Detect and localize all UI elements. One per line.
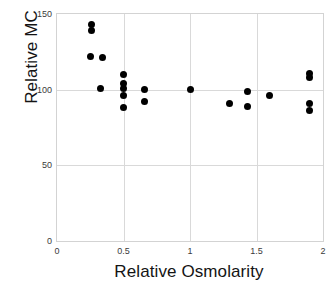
- x-tick-label: 0: [54, 246, 59, 256]
- data-point: [97, 85, 104, 92]
- data-point: [99, 54, 106, 61]
- data-point: [141, 86, 148, 93]
- x-gridline: [124, 14, 125, 241]
- data-point: [226, 100, 233, 107]
- data-point: [244, 88, 251, 95]
- y-axis-title: Relative MC: [21, 0, 43, 137]
- x-tick-label: 1: [187, 246, 192, 256]
- data-point: [120, 92, 127, 99]
- y-tick-label: 150: [37, 9, 52, 19]
- data-point: [306, 74, 313, 81]
- x-tick-label: 2: [320, 246, 325, 256]
- data-point: [120, 71, 127, 78]
- x-gridline: [257, 14, 258, 241]
- x-tick-label: 1.5: [250, 246, 263, 256]
- data-point: [187, 86, 194, 93]
- x-axis-title: Relative Osmolarity: [56, 262, 322, 282]
- y-tick-label: 50: [42, 160, 52, 170]
- data-point: [306, 100, 313, 107]
- data-point: [120, 85, 127, 92]
- x-tick-label: 0.5: [117, 246, 130, 256]
- scatter-chart: Relative MC 05010015000.511.52 Relative …: [0, 0, 334, 290]
- y-tick-label: 100: [37, 85, 52, 95]
- data-point: [88, 27, 95, 34]
- data-point: [266, 92, 273, 99]
- data-point: [141, 98, 148, 105]
- data-point: [306, 107, 313, 114]
- plot-area: 05010015000.511.52: [56, 13, 324, 242]
- data-point: [87, 53, 94, 60]
- data-point: [120, 104, 127, 111]
- x-gridline: [190, 14, 191, 241]
- y-tick-label: 0: [47, 236, 52, 246]
- data-point: [244, 103, 251, 110]
